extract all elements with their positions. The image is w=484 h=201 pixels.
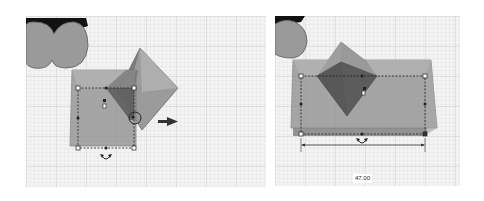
side-handle[interactable] bbox=[77, 117, 80, 120]
side-handle[interactable] bbox=[300, 103, 303, 106]
resize-handle[interactable] bbox=[423, 74, 427, 78]
resize-handle[interactable] bbox=[132, 86, 136, 90]
side-handle[interactable] bbox=[361, 133, 364, 136]
side-handle[interactable] bbox=[424, 103, 427, 106]
heart-shape[interactable] bbox=[26, 18, 88, 68]
workplane-viewport-before[interactable] bbox=[26, 16, 266, 187]
side-handle[interactable] bbox=[361, 75, 364, 78]
move-arrow-icon bbox=[158, 117, 178, 126]
rotate-arrow-icon[interactable] bbox=[100, 154, 112, 159]
side-handle[interactable] bbox=[105, 87, 108, 90]
resize-handle[interactable] bbox=[299, 74, 303, 78]
rotate-arrow-icon[interactable] bbox=[356, 138, 368, 143]
heart-shape[interactable] bbox=[275, 16, 307, 58]
dimension-value-label[interactable]: 47.00 bbox=[353, 174, 372, 183]
side-handle[interactable] bbox=[105, 147, 108, 150]
workplane-viewport-after[interactable]: 47.00 bbox=[275, 16, 460, 186]
side-handle-active[interactable] bbox=[132, 116, 135, 119]
height-handle[interactable] bbox=[103, 104, 106, 108]
height-handle[interactable] bbox=[103, 99, 106, 102]
height-handle[interactable] bbox=[363, 87, 366, 90]
resize-handle-active[interactable] bbox=[423, 132, 427, 136]
resize-handle[interactable] bbox=[76, 146, 80, 150]
resize-handle[interactable] bbox=[132, 146, 136, 150]
resize-handle[interactable] bbox=[76, 86, 80, 90]
resize-handle[interactable] bbox=[299, 132, 303, 136]
dimension-line bbox=[301, 138, 425, 152]
height-handle[interactable] bbox=[362, 91, 365, 95]
